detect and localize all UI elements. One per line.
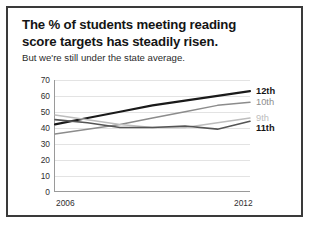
series-lines — [55, 80, 250, 191]
series-label-9th: 9th — [256, 113, 269, 123]
x-axis-tick-2012: 2012 — [234, 198, 253, 208]
y-axis-tick-0: 0 — [22, 188, 50, 196]
page-title-line-2: score targets has steadily risen. — [22, 34, 274, 51]
y-axis-tick-50: 50 — [22, 108, 50, 116]
series-label-10th: 10th — [256, 97, 274, 107]
y-axis-tick-40: 40 — [22, 124, 50, 132]
page-subtitle: But we're still under the state average. — [22, 52, 274, 64]
y-axis-tick-30: 30 — [22, 140, 50, 148]
series-label-12th: 12th — [256, 86, 275, 96]
chart-card: The % of students meeting reading score … — [6, 6, 303, 217]
y-axis-tick-20: 20 — [22, 156, 50, 164]
line-chart: 010203040506070 2006 2012 12th10th9th11t… — [22, 76, 292, 211]
y-axis-tick-70: 70 — [22, 76, 50, 84]
plot-area — [54, 80, 250, 192]
page-title-line-1: The % of students meeting reading — [22, 17, 274, 34]
x-axis-tick-2006: 2006 — [56, 198, 75, 208]
series-label-11th: 11th — [256, 123, 275, 133]
y-axis-tick-60: 60 — [22, 92, 50, 100]
series-line-11th — [55, 120, 250, 130]
series-line-9th — [55, 115, 250, 128]
headline-block: The % of students meeting reading score … — [22, 17, 274, 64]
y-axis-tick-10: 10 — [22, 172, 50, 180]
chart-inner-panel: The % of students meeting reading score … — [8, 8, 301, 215]
